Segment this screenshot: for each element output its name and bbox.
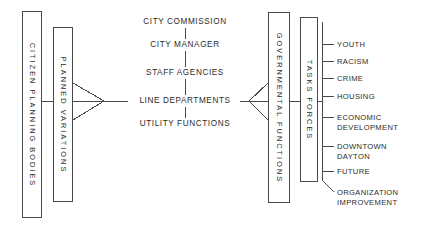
connector-governmental-lower-diagonal xyxy=(249,101,268,120)
task-force-item-organization-improvement-line1: ORGANIZATION xyxy=(337,188,398,197)
box-citizen-planning-bodies-label: CITIZEN PLANNING BODIES xyxy=(28,42,35,187)
center-item-city-manager: CITY MANAGER xyxy=(150,41,219,49)
task-force-item-downtown-dayton-line1: DOWNTOWN xyxy=(337,142,387,151)
connector-planned-lower-diagonal xyxy=(73,101,104,120)
organization-diagram: CITIZEN PLANNING BODIES PLANNED VARIATIO… xyxy=(0,0,429,229)
task-force-item-economic-development-line1: ECONOMIC xyxy=(337,113,382,122)
task-force-item-youth: YOUTH xyxy=(337,40,365,50)
task-force-item-crime-line1: CRIME xyxy=(337,74,363,83)
box-planned-variations: PLANNED VARIATIONS xyxy=(53,27,73,202)
task-force-item-racism: RACISM xyxy=(337,57,369,67)
task-force-item-downtown-dayton: DOWNTOWN DAYTON xyxy=(337,142,387,161)
center-item-city-commission: CITY COMMISSION xyxy=(143,18,226,26)
center-item-staff-agencies: STAFF AGENCIES xyxy=(146,69,224,77)
task-force-item-racism-line1: RACISM xyxy=(337,57,369,66)
task-force-item-economic-development-line2: DEVELOPMENT xyxy=(337,123,398,133)
task-force-item-future: FUTURE xyxy=(337,167,370,177)
box-citizen-planning-bodies: CITIZEN PLANNING BODIES xyxy=(22,11,42,218)
task-force-item-future-line1: FUTURE xyxy=(337,167,370,176)
task-force-item-organization-improvement-line2: IMPROVEMENT xyxy=(337,198,398,208)
center-item-utility-functions: UTILITY FUNCTIONS xyxy=(140,120,231,128)
task-tick-organization-improvement xyxy=(322,180,334,192)
box-governmental-functions: GOVERNMENTAL FUNCTIONS xyxy=(268,12,290,203)
box-tasks-forces: TASKS FORCES xyxy=(300,17,318,182)
box-tasks-forces-label: TASKS FORCES xyxy=(305,59,312,140)
box-governmental-functions-label: GOVERNMENTAL FUNCTIONS xyxy=(275,32,282,182)
box-planned-variations-label: PLANNED VARIATIONS xyxy=(59,56,66,173)
task-force-item-housing: HOUSING xyxy=(337,92,375,102)
task-force-item-organization-improvement: ORGANIZATION IMPROVEMENT xyxy=(337,188,398,207)
connector-planned-upper-diagonal xyxy=(73,83,104,101)
center-item-line-departments: LINE DEPARTMENTS xyxy=(139,97,230,105)
task-force-item-youth-line1: YOUTH xyxy=(337,40,365,49)
task-force-item-housing-line1: HOUSING xyxy=(337,92,375,101)
task-force-item-economic-development: ECONOMIC DEVELOPMENT xyxy=(337,113,398,132)
task-force-item-crime: CRIME xyxy=(337,74,363,84)
task-force-item-downtown-dayton-line2: DAYTON xyxy=(337,152,387,162)
connector-governmental-upper-diagonal xyxy=(249,83,268,101)
